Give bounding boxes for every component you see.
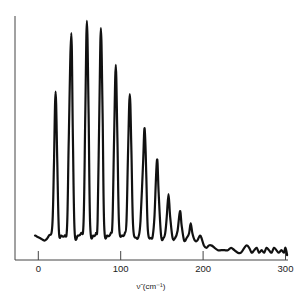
- plot-area: 0100200300 ν̃ (cm⁻¹): [15, 16, 293, 291]
- x-tick-label: 0: [36, 263, 41, 274]
- spectrum-line: [35, 21, 287, 255]
- spectrum-chart: 0100200300 ν̃ (cm⁻¹): [0, 0, 302, 303]
- x-tick-label: 300: [278, 263, 294, 274]
- x-tick-label: 200: [195, 263, 211, 274]
- x-axis-title: ν̃ (cm⁻¹): [137, 282, 166, 291]
- x-axis-ticks: 0100200300: [36, 251, 294, 274]
- x-tick-label: 100: [113, 263, 129, 274]
